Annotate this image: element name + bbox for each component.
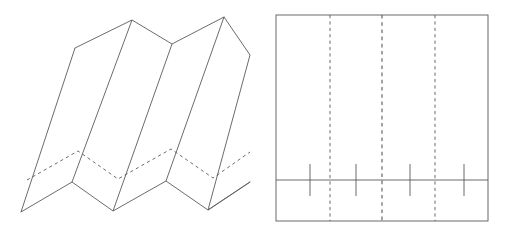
edge-right-outer [208, 55, 250, 210]
geometry-diagram [0, 0, 506, 236]
bottom-zigzag-edge [21, 181, 250, 212]
hidden-zigzag-edge [27, 149, 250, 180]
edge-far-right [224, 17, 250, 55]
edge-ridge-1 [113, 44, 172, 211]
right-figure-flat-net [276, 15, 488, 221]
left-figure-accordion-folded-sheet-3d [21, 17, 250, 212]
top-zigzag-edge [75, 17, 224, 48]
edge-left-outer [21, 48, 75, 212]
edge-valley-2 [166, 17, 224, 181]
edge-valley-1 [72, 20, 132, 182]
figure-root [0, 0, 506, 236]
